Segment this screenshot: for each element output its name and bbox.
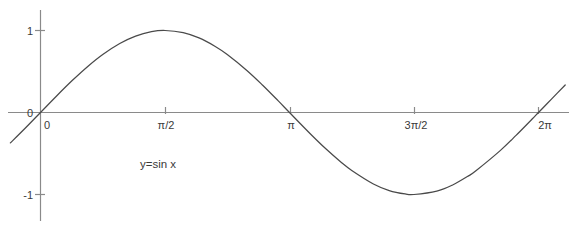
plot-area — [0, 0, 576, 229]
x-tick-label-two-pi: 2π — [538, 120, 552, 131]
curve-equation-label: y=sin x — [140, 159, 176, 171]
y-tick-label-0: 0 — [27, 107, 33, 118]
x-tick-label-three-half-pi: 3π/2 — [405, 120, 428, 131]
sine-function-chart: 1 0 -1 0 π/2 π 3π/2 2π y=sin x — [0, 0, 576, 229]
y-tick-label-minus-1: -1 — [23, 189, 33, 200]
x-tick-label-0: 0 — [44, 120, 50, 131]
x-tick-label-pi: π — [287, 120, 295, 131]
axes-group — [8, 10, 569, 221]
x-tick-label-half-pi: π/2 — [158, 120, 175, 131]
y-tick-label-1: 1 — [27, 25, 33, 36]
